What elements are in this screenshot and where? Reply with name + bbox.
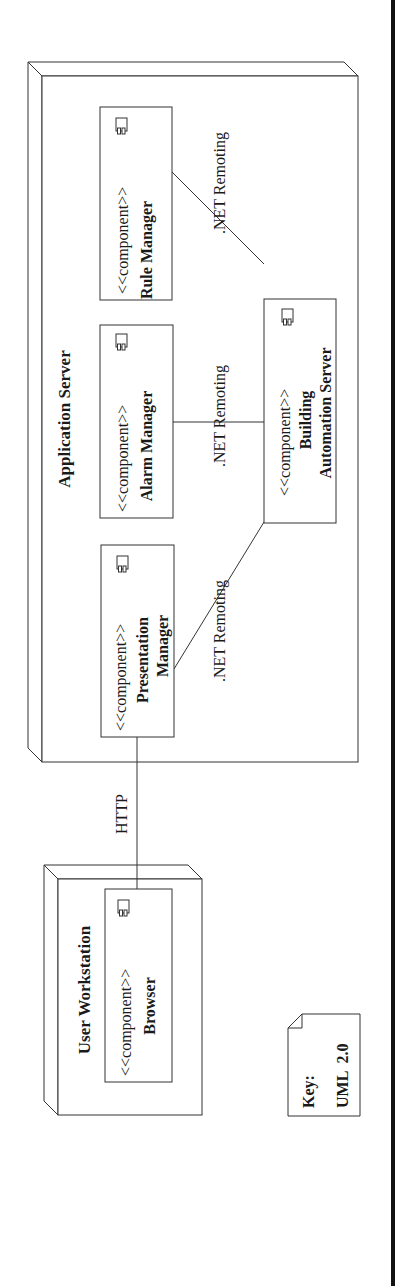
key-title: Key:: [300, 1075, 318, 1108]
component-browser[interactable]: <<component>> Browser: [105, 889, 172, 1082]
stereotype-label: <<component>>: [114, 187, 132, 294]
component-icon: [116, 118, 127, 134]
component-rule-manager[interactable]: <<component>> Rule Manager: [100, 107, 172, 300]
stereotype-label: <<component>>: [276, 389, 294, 496]
user-workstation-label: User Workstation: [75, 925, 94, 1054]
component-name-line-1: Building: [297, 391, 315, 450]
component-building-automation-server[interactable]: <<component>> Building Automation Server: [264, 299, 336, 523]
uml-deployment-diagram: Application Server .NET Remoting .NET Re…: [0, 0, 403, 1286]
label-alarm-bas: .NET Remoting: [211, 365, 229, 467]
diagram-canvas: Application Server .NET Remoting .NET Re…: [0, 0, 403, 1286]
stereotype-label: <<component>>: [117, 969, 135, 1076]
page-border-line: [391, 0, 395, 1286]
label-browser-presentation: HTTP: [113, 794, 130, 834]
component-name: Browser: [141, 977, 158, 1034]
key-note: Key: UML 2.0: [288, 1014, 360, 1116]
stereotype-label: <<component>>: [114, 405, 132, 512]
component-name-line-2: Automation Server: [317, 347, 334, 478]
component-icon: [282, 309, 293, 325]
component-name-line-1: Presentation: [134, 617, 151, 703]
component-icon: [117, 556, 128, 572]
label-rule-bas: .NET Remoting: [211, 132, 229, 234]
component-presentation-manager[interactable]: <<component>> Presentation Manager: [101, 545, 174, 737]
key-value: UML 2.0: [334, 1044, 351, 1108]
component-name: Alarm Manager: [138, 391, 156, 502]
component-icon: [116, 334, 127, 350]
component-icon: [118, 900, 129, 916]
component-name-line-2: Manager: [154, 615, 172, 677]
component-alarm-manager[interactable]: <<component>> Alarm Manager: [100, 325, 173, 518]
application-server-label: Application Server: [55, 350, 74, 488]
label-presentation-bas: .NET Remoting: [211, 580, 229, 682]
component-name: Rule Manager: [138, 201, 156, 299]
stereotype-label: <<component>>: [112, 624, 130, 731]
